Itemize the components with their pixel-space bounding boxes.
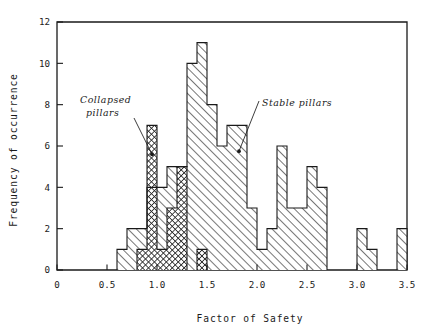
y-tick-label: 12 bbox=[39, 16, 50, 27]
chart-canvas: 00.51.01.52.02.53.03.5 024681012 Factor … bbox=[0, 0, 443, 333]
y-tick-label: 0 bbox=[44, 264, 50, 275]
y-tick-label: 2 bbox=[44, 223, 50, 234]
y-tick-label: 8 bbox=[44, 99, 50, 110]
y-tick-label: 10 bbox=[39, 58, 50, 69]
stable-pillars-leader-dot bbox=[237, 149, 241, 153]
collapsed-pillars-label-line2: pillars bbox=[86, 107, 119, 118]
x-tick-label: 1.0 bbox=[149, 279, 166, 290]
x-tick-label: 0 bbox=[54, 279, 60, 290]
x-tick-label: 3.5 bbox=[399, 279, 416, 290]
y-tick-label: 4 bbox=[44, 182, 50, 193]
x-tick-label: 1.5 bbox=[199, 279, 216, 290]
x-tick-label: 0.5 bbox=[99, 279, 116, 290]
y-tick-label: 6 bbox=[44, 140, 50, 151]
x-axis-title: Factor of Safety bbox=[197, 313, 304, 324]
stable-pillars-label: Stable pillars bbox=[262, 97, 332, 108]
x-tick-label: 2.0 bbox=[249, 279, 266, 290]
x-tick-label: 2.5 bbox=[299, 279, 316, 290]
y-axis-title: Frequency of occurrence bbox=[8, 73, 19, 227]
collapsed-pillars-leader-dot bbox=[150, 152, 154, 156]
collapsed-pillars-label-line1: Collapsed bbox=[80, 94, 131, 105]
histogram-figure: 00.51.01.52.02.53.03.5 024681012 Factor … bbox=[0, 0, 443, 333]
x-tick-label: 3.0 bbox=[349, 279, 366, 290]
